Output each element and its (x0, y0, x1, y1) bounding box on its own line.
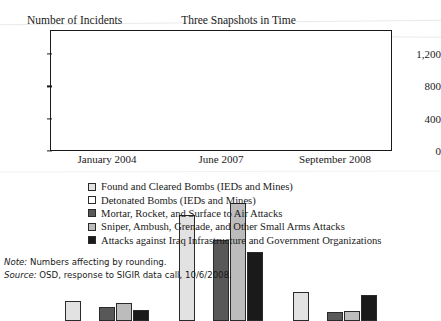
chart-legend: Found and Cleared Bombs (IEDs and Mines)… (88, 180, 388, 247)
legend-item-label: Attacks against Iraq Infrastructure and … (101, 235, 381, 246)
bar (133, 310, 149, 321)
footnote-note-label: Note: (4, 257, 27, 267)
y-axis-tick-label: 800 (397, 80, 441, 92)
footnote-note-text: Numbers affecting by rounding. (27, 257, 166, 267)
footnote-source-label: Source: (4, 270, 37, 280)
x-axis-category-label: January 2004 (50, 153, 164, 165)
legend-swatch-icon (88, 183, 96, 191)
legend-swatch-icon (88, 196, 96, 204)
bar (344, 311, 360, 321)
y-axis-tick-label: 400 (397, 113, 441, 125)
legend-swatch-icon (88, 236, 96, 244)
footnote-note: Note: Numbers affecting by rounding. (4, 256, 441, 269)
legend-item: Detonated Bombs (IEDs and Mines) (88, 193, 388, 206)
legend-swatch-icon (88, 223, 96, 231)
legend-item: Found and Cleared Bombs (IEDs and Mines) (88, 180, 388, 193)
legend-item: Sniper, Ambush, Grenade, and Other Small… (88, 220, 388, 233)
bar (99, 307, 115, 321)
bar (116, 303, 132, 321)
chart-title: Three Snapshots in Time (0, 14, 441, 26)
legend-item-label: Found and Cleared Bombs (IEDs and Mines) (101, 181, 293, 192)
legend-swatch-icon (88, 209, 96, 217)
x-axis-category-label: June 2007 (164, 153, 278, 165)
y-axis-tick-label: 0 (397, 145, 441, 157)
footnote-source: Source: OSD, response to SIGIR data call… (4, 269, 441, 282)
footnote-source-text: OSD, response to SIGIR data call, 10/6/2… (37, 270, 232, 280)
chart-header: Number of Incidents Three Snapshots in T… (0, 14, 441, 30)
bar (293, 292, 309, 321)
bar (361, 295, 377, 321)
legend-item-label: Sniper, Ambush, Grenade, and Other Small… (101, 221, 345, 232)
bar (65, 301, 81, 321)
x-axis-category-label: September 2008 (278, 153, 392, 165)
footnotes: Note: Numbers affecting by rounding. Sou… (4, 256, 441, 282)
legend-item-label: Detonated Bombs (IEDs and Mines) (101, 195, 256, 206)
y-axis-tick-label: 1,200 (397, 48, 441, 60)
legend-item: Mortar, Rocket, and Surface to Air Attac… (88, 207, 388, 220)
bar (327, 312, 343, 321)
legend-item-label: Mortar, Rocket, and Surface to Air Attac… (101, 208, 282, 219)
legend-item: Attacks against Iraq Infrastructure and … (88, 234, 388, 247)
